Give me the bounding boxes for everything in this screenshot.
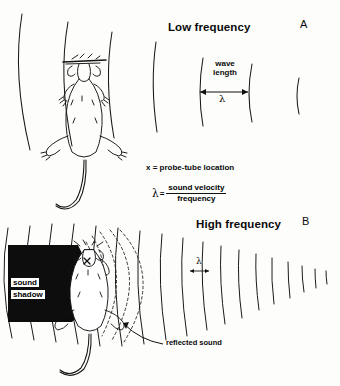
- reflected-sound-label: reflected sound: [166, 339, 222, 347]
- wavefront-b-14: [272, 258, 274, 304]
- formula-lambda-symbol: λ: [152, 187, 159, 199]
- formula-numerator: sound velocity: [166, 183, 226, 193]
- formula-equals-sign: =: [160, 189, 165, 198]
- panel-b-title: High frequency: [196, 218, 281, 230]
- wavelength-caption-a: wave length: [205, 60, 245, 78]
- wavefront-b-12: [238, 250, 242, 318]
- wavefront-b-8: [160, 234, 166, 340]
- sound-wavelength-figure: Low frequency A wave length λ x = probe-…: [0, 0, 340, 386]
- wavefront-b-18: [326, 271, 327, 284]
- panel-a-letter: A: [300, 19, 307, 31]
- formula-denominator: frequency: [175, 194, 217, 204]
- wavefront-b-16: [302, 266, 304, 292]
- wavelength-caption-line2: length: [213, 68, 237, 77]
- wavelength-caption-line1: wave: [215, 59, 235, 68]
- lambda-symbol-a: λ: [219, 94, 225, 105]
- panel-b-letter: B: [302, 216, 309, 228]
- reflected-wave-4: [120, 230, 143, 342]
- sound-shadow-label-line2: shadow: [11, 290, 45, 299]
- wavefront-b-10: [202, 242, 207, 330]
- wavefront-b-13: [256, 254, 259, 310]
- wavefront-b-17: [315, 269, 316, 288]
- lambda-symbol-b: λ: [196, 256, 202, 266]
- panel-a-title: Low frequency: [168, 21, 250, 33]
- formula-fraction: sound velocity frequency: [166, 183, 226, 203]
- sound-shadow-label-line1: sound: [11, 278, 39, 287]
- wavefront-b-15: [288, 262, 290, 298]
- wavelength-measure-b: [190, 269, 209, 273]
- wavefront-b-9: [182, 238, 187, 336]
- wavefront-b-11: [221, 246, 226, 324]
- wavelength-formula: λ = sound velocity frequency: [152, 183, 226, 203]
- probe-tube-note: x = probe-tube location: [146, 164, 234, 172]
